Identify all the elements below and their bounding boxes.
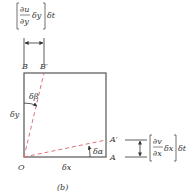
- point-a-label: A: [109, 153, 116, 162]
- deformed-edge-ob: [24, 73, 44, 157]
- right-expr-numerator: ∂v: [153, 137, 162, 146]
- top-expr-numerator: ∂u: [20, 5, 29, 14]
- origin-label: O: [18, 163, 25, 172]
- side-dx-label: δx: [62, 163, 72, 172]
- right-expr-left-bracket: [150, 135, 152, 161]
- fluid-element-square: [24, 73, 106, 157]
- top-expr-right-bracket: [43, 3, 45, 29]
- alpha-arc-icon: [89, 146, 90, 157]
- top-expr-factor: δy: [32, 11, 42, 20]
- deformation-diagram: ∂u ∂y δy δt ∂v ∂x δx δt B B′ A′ A O δx δ…: [0, 0, 194, 195]
- point-a-prime-label: A′: [109, 135, 118, 144]
- right-expr-factor: δx: [164, 144, 174, 153]
- top-expr-denominator: ∂y: [20, 17, 29, 26]
- right-expr-denominator: ∂x: [153, 149, 162, 158]
- point-b-label: B: [21, 62, 28, 71]
- top-expr-time: δt: [47, 11, 56, 20]
- right-expr-time: δt: [178, 144, 187, 153]
- right-expr-right-bracket: [174, 135, 176, 161]
- side-dy-label: δy: [10, 110, 20, 119]
- angle-beta-label: δβ: [29, 92, 39, 101]
- beta-arc-icon: [24, 103, 37, 106]
- point-b-prime-label: B′: [39, 62, 48, 71]
- top-expr-left-bracket: [17, 3, 19, 29]
- angle-alpha-label: δα: [93, 147, 104, 156]
- figure-caption: (b): [57, 183, 68, 192]
